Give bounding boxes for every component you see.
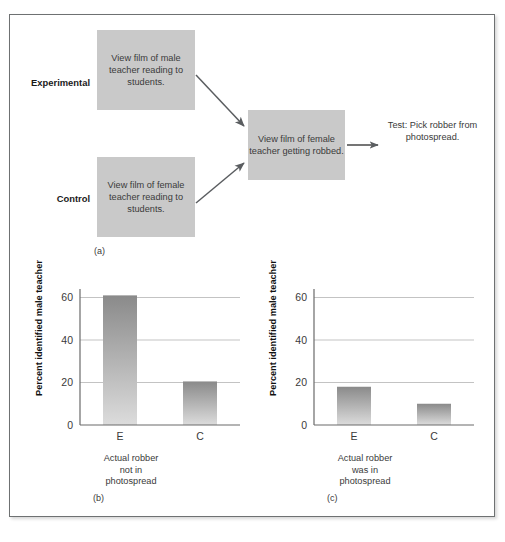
x-tick-label: E: [116, 430, 123, 442]
flow-box-control-film: View film of female teacher reading to s…: [97, 157, 195, 237]
bars-c: [337, 387, 451, 425]
chart-panel-c: Percent identified male teacher 0204060 …: [252, 277, 480, 512]
bar-C: [417, 404, 451, 425]
x-axis-caption-line-1: Actual robber: [56, 453, 206, 465]
x-tick-label: C: [196, 430, 204, 442]
panel-tag-b: (b): [93, 493, 104, 503]
figure-frame: Experimental Control View film of male t…: [9, 14, 495, 517]
x-axis-caption-line-3: photospread: [56, 476, 206, 488]
flow-box-robbery-film: View film of female teacher getting robb…: [248, 110, 345, 180]
flow-diagram-panel: Experimental Control View film of male t…: [10, 15, 496, 267]
flow-text-test: Test: Pick robber from photospread.: [380, 119, 485, 143]
bar-chart-b: 0204060 EC: [18, 277, 246, 457]
flow-box-experimental-film: View film of male teacher reading to stu…: [97, 30, 195, 110]
y-tick-label: 20: [295, 376, 307, 388]
panel-tag-c: (c): [327, 493, 338, 503]
bar-C: [183, 381, 217, 425]
x-tick-label: E: [350, 430, 357, 442]
x-tick-labels-c: EC: [350, 430, 438, 442]
y-tick-label: 20: [61, 376, 73, 388]
bar-chart-c: 0204060 EC: [252, 277, 480, 457]
x-axis-caption-line-3: photospread: [290, 476, 440, 488]
y-axis-title-c: Percent identified male teacher: [268, 258, 278, 398]
bar-E: [103, 295, 137, 425]
y-tick-label: 0: [67, 419, 73, 431]
gridlines-c: [314, 298, 474, 383]
group-label-experimental: Experimental: [10, 77, 90, 88]
x-axis-caption-line-1: Actual robber: [290, 453, 440, 465]
y-tick-label: 40: [61, 334, 73, 346]
chart-panel-b: Percent identified male teacher 0204060 …: [18, 277, 246, 512]
x-axis-caption-line-2: was in: [290, 465, 440, 477]
x-axis-caption-b: Actual robber not in photospread: [56, 453, 206, 488]
y-tick-label: 40: [295, 334, 307, 346]
bars-b: [103, 295, 217, 425]
y-tick-label: 60: [295, 291, 307, 303]
y-tick-label: 60: [61, 291, 73, 303]
x-tick-labels-b: EC: [116, 430, 204, 442]
y-tick-labels-b: 0204060: [61, 291, 73, 431]
x-axis-caption-c: Actual robber was in photospread: [290, 453, 440, 488]
panel-tag-a: (a): [94, 246, 105, 256]
x-axis-caption-line-2: not in: [56, 465, 206, 477]
y-tick-label: 0: [301, 419, 307, 431]
y-axis-title-b: Percent identified male teacher: [34, 258, 44, 398]
arrow-control-to-robbery: [196, 163, 244, 203]
x-tick-label: C: [430, 430, 438, 442]
group-label-control: Control: [10, 193, 90, 204]
arrow-experimental-to-robbery: [196, 75, 244, 126]
y-tick-labels-c: 0204060: [295, 291, 307, 431]
bar-E: [337, 387, 371, 425]
